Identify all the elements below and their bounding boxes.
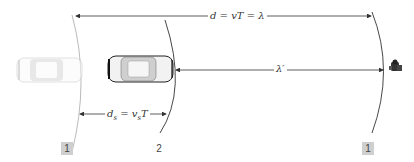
wavelength-label-text: d = vT = λ [210, 10, 265, 21]
car-icon [108, 56, 173, 82]
wavefront-label-left: 1 [61, 142, 73, 155]
wavefront-label-middle: 2 [153, 142, 165, 155]
source-distance-label: ds = vsT [105, 108, 150, 124]
car-icon [17, 58, 82, 82]
doppler-diagram [0, 0, 414, 162]
person-icon [389, 60, 402, 72]
wavelength-label: d = vT = λ [208, 10, 267, 21]
ds-T: T [141, 108, 148, 119]
ds-eq: = v [117, 108, 137, 119]
lambda-prime-label: λ′ [274, 63, 287, 74]
wavefront-label-right: 1 [362, 142, 374, 155]
lambda-prime-label-text: λ′ [276, 63, 285, 74]
wavefront-1-left [72, 15, 81, 152]
wavefront-1-right [372, 12, 384, 133]
